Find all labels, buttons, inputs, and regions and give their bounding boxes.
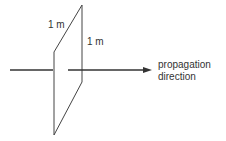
arrowhead-icon [143, 67, 152, 73]
wave-plane-diagram: 1 m 1 m propagation direction [0, 0, 226, 141]
height-label: 1 m [87, 36, 104, 47]
width-label: 1 m [48, 19, 65, 30]
direction-label-line1: propagation [158, 59, 211, 70]
direction-label-line2: direction [158, 71, 196, 82]
